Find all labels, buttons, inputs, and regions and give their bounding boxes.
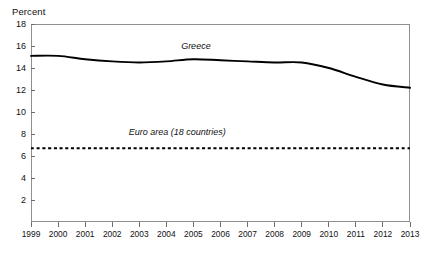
y-axis-tick-label: 6	[2, 152, 26, 161]
chart-container: Percent 24681012141618 19992000200120022…	[0, 0, 426, 253]
y-axis-tick-label: 8	[2, 130, 26, 139]
y-axis-tick-label: 14	[2, 64, 26, 73]
y-axis-tick-label: 16	[2, 42, 26, 51]
y-axis-tick-label: 4	[2, 174, 26, 183]
x-axis-tick-label: 2013	[393, 230, 426, 239]
series-label: Euro area (18 countries)	[129, 127, 226, 137]
y-axis-tick-label: 10	[2, 108, 26, 117]
y-axis-tick-label: 18	[2, 20, 26, 29]
y-axis-tick-label: 2	[2, 196, 26, 205]
y-axis-tick-label: 12	[2, 86, 26, 95]
plot-area	[31, 24, 410, 222]
y-axis-title: Percent	[12, 6, 45, 17]
series-label: Greece	[181, 41, 211, 51]
